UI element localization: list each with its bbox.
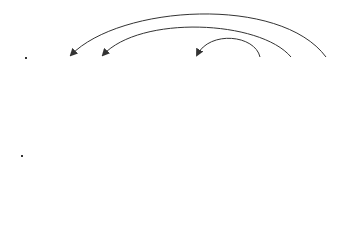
bottom-array: [21, 155, 23, 157]
copy-arrows: [0, 0, 356, 236]
arrow-7-to-5: [197, 38, 260, 57]
arrow-8-to-2: [103, 27, 291, 57]
arrow-9-to-1: [71, 14, 326, 57]
top-array: [25, 57, 27, 59]
